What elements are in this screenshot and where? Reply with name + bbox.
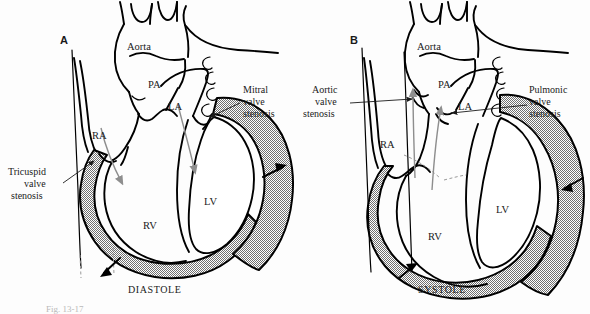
- panel-a-mitral-line3: stenosis: [243, 108, 275, 119]
- panel-a-phase-caption: DIASTOLE: [128, 284, 182, 295]
- panel-b-phase-caption: SYSTOLE: [418, 284, 466, 295]
- panel-a-mitral-line2: valve: [243, 96, 265, 107]
- figure-container: A Aorta PA LA RA LV RV Tricuspid valve s…: [0, 0, 590, 314]
- panel-b-letter: B: [350, 34, 358, 46]
- panel-a-label-pa: PA: [148, 79, 161, 90]
- panel-a-mitral-line1: Mitral: [243, 84, 268, 95]
- panel-b-aortic-line2: valve: [315, 96, 337, 107]
- panel-b-label-rv: RV: [428, 231, 442, 242]
- panel-b-pulmonic-line2: valve: [529, 96, 551, 107]
- panel-a-letter: A: [60, 34, 68, 46]
- panel-b-label-la: LA: [458, 101, 472, 112]
- panel-b-label-aorta: Aorta: [417, 41, 441, 52]
- panel-a-label-la: LA: [168, 101, 182, 112]
- panel-a-label-rv: RV: [143, 220, 157, 231]
- panel-a-tricuspid-line3: stenosis: [11, 190, 43, 201]
- heart-diagram-svg: A Aorta PA LA RA LV RV Tricuspid valve s…: [0, 0, 590, 314]
- panel-b-label-ra: RA: [380, 139, 395, 150]
- panel-b-aortic-line1: Aortic: [312, 84, 338, 95]
- panel-a-tricuspid-line1: Tricuspid: [8, 166, 46, 177]
- panel-a-label-ra: RA: [92, 130, 107, 141]
- panel-b-pulmonic-line3: stenosis: [529, 108, 561, 119]
- panel-a-tricuspid-line2: valve: [24, 178, 46, 189]
- panel-b-label-pa: PA: [438, 79, 451, 90]
- panel-b-label-lv: LV: [496, 204, 509, 215]
- panel-b-pulmonic-line1: Pulmonic: [529, 84, 568, 95]
- panel-a-label-aorta: Aorta: [127, 41, 151, 52]
- figure-caption: Fig. 13-17: [46, 304, 84, 314]
- panel-b-aortic-line3: stenosis: [303, 108, 335, 119]
- panel-a-label-lv: LV: [204, 196, 217, 207]
